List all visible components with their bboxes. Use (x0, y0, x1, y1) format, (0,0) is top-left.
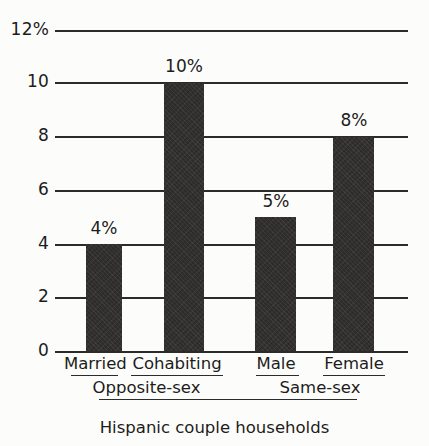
group-label-same-sex[interactable]: Same-sex (255, 378, 385, 397)
axis-caption: Hispanic couple households (0, 418, 429, 437)
rule-male (256, 375, 299, 376)
bar-male[interactable] (255, 217, 296, 351)
bar-married[interactable] (86, 244, 122, 351)
y-tick-label-4: 4 (38, 233, 49, 253)
bar-value-male: 5% (246, 191, 306, 211)
rule-opposite-sex (99, 399, 297, 400)
category-label-cohabiting[interactable]: Cohabiting (128, 354, 226, 373)
rule-same-sex (282, 399, 357, 400)
rule-female (323, 375, 385, 376)
category-label-married[interactable]: Married (64, 354, 124, 373)
bar-cohabiting[interactable] (164, 83, 204, 351)
category-label-female[interactable]: Female (317, 354, 391, 373)
bar-value-married: 4% (74, 218, 134, 238)
y-axis-tick-labels: 12% 10 8 6 4 2 0 (0, 30, 49, 351)
y-tick-label-6: 6 (38, 179, 49, 199)
bar-female[interactable] (333, 137, 374, 351)
category-label-male[interactable]: Male (249, 354, 303, 373)
rule-married (71, 375, 118, 376)
gridline-10 (55, 82, 408, 84)
bar-value-cohabiting: 10% (154, 56, 214, 76)
y-tick-label-10: 10 (27, 71, 49, 91)
bar-chart-figure: 12% 10 8 6 4 2 0 4% 10% 5% 8% Married (0, 0, 429, 446)
gridline-12 (55, 30, 408, 32)
category-axis: Married Cohabiting Male Female Opposite-… (0, 352, 429, 446)
y-tick-label-2: 2 (38, 286, 49, 306)
bar-value-female: 8% (324, 110, 384, 130)
group-label-opposite-sex[interactable]: Opposite-sex (69, 378, 224, 397)
y-tick-label-8: 8 (38, 125, 49, 145)
y-tick-label-12: 12% (11, 19, 49, 39)
rule-cohabiting (131, 375, 223, 376)
plot-area: 4% 10% 5% 8% (55, 30, 408, 351)
